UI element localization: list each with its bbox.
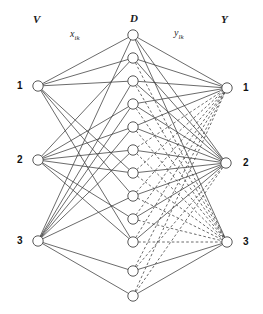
- network-edge-solid: [138, 89, 222, 103]
- node-group-input-layer: [33, 81, 43, 246]
- output-node-1[interactable]: [222, 83, 232, 93]
- input-node-2[interactable]: [33, 155, 43, 165]
- network-edge-dashed: [136, 167, 223, 291]
- network-edge-dashed: [136, 108, 224, 237]
- network-edge-dashed: [138, 220, 222, 241]
- network-edge-solid: [41, 85, 131, 236]
- hidden-layer-title: D: [130, 13, 138, 24]
- hidden-node-12[interactable]: [128, 291, 138, 301]
- hidden-node-11[interactable]: [128, 266, 138, 276]
- hidden-node-3[interactable]: [128, 76, 138, 86]
- network-edge-solid: [137, 166, 221, 217]
- node-group-hidden-layer: [128, 30, 138, 301]
- hidden-node-4[interactable]: [128, 99, 138, 109]
- hidden-node-8[interactable]: [128, 191, 138, 201]
- input-node-1[interactable]: [33, 81, 43, 91]
- network-edge-dashed: [136, 85, 225, 237]
- network-edge-solid: [138, 245, 223, 294]
- network-edge-solid: [136, 62, 222, 159]
- network-edge-solid: [138, 165, 221, 195]
- network-edge-solid: [41, 90, 129, 192]
- network-edge-solid: [41, 90, 131, 237]
- network-edge-solid: [43, 81, 128, 85]
- input-layer-title: V: [33, 14, 40, 25]
- output-layer-title: Y: [221, 14, 228, 25]
- hidden-node-5[interactable]: [128, 122, 138, 132]
- network-edge-solid: [42, 163, 129, 238]
- output-node-label-3: 3: [243, 237, 249, 247]
- output-node-label-2: 2: [243, 158, 249, 168]
- network-graph-canvas: [0, 0, 263, 314]
- output-node-label-1: 1: [243, 83, 249, 93]
- network-edge-solid: [138, 244, 222, 270]
- network-edge-solid: [138, 164, 221, 173]
- network-edge-solid: [40, 40, 131, 237]
- output-weight-subscript: lk: [178, 33, 183, 41]
- hidden-node-9[interactable]: [128, 214, 138, 224]
- output-node-2[interactable]: [221, 158, 231, 168]
- hidden-node-2[interactable]: [128, 53, 138, 63]
- edge-group-hidden-to-output: [135, 38, 225, 294]
- network-edge-solid: [43, 198, 129, 239]
- network-edge-solid: [138, 38, 223, 86]
- network-edge-solid: [43, 243, 128, 270]
- hidden-node-7[interactable]: [128, 168, 138, 178]
- network-edge-solid: [43, 151, 128, 160]
- hidden-node-1[interactable]: [128, 30, 138, 40]
- network-edge-dashed: [137, 176, 223, 239]
- output-weight-label: ylk: [174, 28, 184, 41]
- node-group-output-layer: [221, 83, 232, 247]
- network-edge-solid: [43, 59, 128, 84]
- network-edge-solid: [43, 161, 128, 173]
- input-node-label-1: 1: [17, 81, 23, 91]
- network-edge-solid: [43, 129, 128, 159]
- network-edge-solid: [41, 131, 129, 237]
- network-edge-solid: [41, 108, 130, 236]
- edge-group-input-to-hidden: [40, 37, 131, 293]
- hidden-node-10[interactable]: [128, 237, 138, 247]
- input-node-3[interactable]: [33, 236, 43, 246]
- network-edge-dashed: [135, 93, 224, 267]
- network-edge-dashed: [137, 91, 223, 169]
- hidden-node-6[interactable]: [128, 145, 138, 155]
- network-edge-dashed: [137, 154, 224, 239]
- network-edge-solid: [43, 244, 129, 294]
- network-diagram-figure: V D Y xik ylk 123 123: [0, 0, 263, 314]
- output-node-3[interactable]: [222, 237, 232, 247]
- input-node-label-2: 2: [17, 155, 23, 165]
- input-weight-label: xik: [70, 29, 80, 42]
- input-weight-subscript: ik: [74, 34, 79, 42]
- input-node-label-3: 3: [17, 236, 23, 246]
- network-edge-solid: [42, 90, 129, 170]
